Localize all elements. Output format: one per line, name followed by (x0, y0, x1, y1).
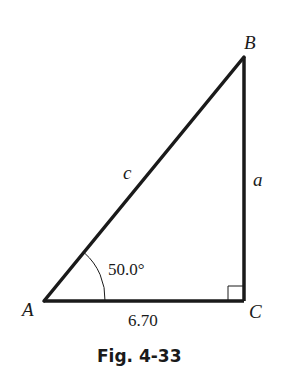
figure-caption: Fig. 4-33 (97, 346, 182, 366)
side-label-c: c (123, 162, 132, 183)
vertex-label-a: A (20, 299, 34, 320)
side-label-a: a (253, 169, 263, 190)
angle-label-a: 50.0° (108, 260, 145, 279)
vertex-label-b: B (244, 32, 256, 53)
right-angle-marker (228, 286, 243, 301)
side-label-b: 6.70 (128, 311, 158, 330)
angle-arc-a (85, 253, 106, 301)
vertex-label-c: C (249, 301, 262, 322)
right-triangle-diagram: B A C c a 6.70 50.0° Fig. 4-33 (0, 0, 281, 369)
